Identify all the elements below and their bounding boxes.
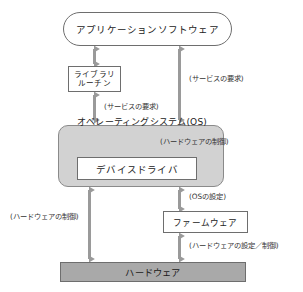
- node-application-software-label: アプリケーションソフトウェア: [76, 22, 219, 36]
- node-device-driver-label: デバイスドライバ: [96, 162, 178, 176]
- diagram-canvas: アプリケーションソフトウェア ライブラリ ルーチン オペレーティングシステム(O…: [0, 0, 303, 292]
- node-library-routine-label-line2: ルーチン: [78, 79, 111, 88]
- node-library-routine: ライブラリ ルーチン: [68, 66, 121, 92]
- node-device-driver: デバイスドライバ: [77, 157, 197, 180]
- edge-label-service-request-right: (サービスの要求): [189, 73, 244, 83]
- node-hardware-label: ハードウェア: [125, 265, 180, 279]
- node-application-software: アプリケーションソフトウェア: [63, 12, 232, 46]
- edge-label-hardware-control-left: (ハードウェアの制御): [10, 211, 79, 221]
- node-operating-system-label: オペレーティングシステム(OS): [59, 115, 225, 128]
- node-library-routine-label-line1: ライブラリ: [74, 70, 115, 79]
- node-hardware: ハードウェア: [60, 262, 246, 282]
- edge-label-service-request-left: (サービスの要求): [104, 101, 159, 111]
- node-firmware: ファームウェア: [163, 211, 248, 233]
- edge-label-hardware-control-os: (ハードウェアの制御): [160, 136, 229, 146]
- edge-label-hardware-set-control: (ハードウェアの設定／制御): [189, 240, 279, 250]
- edge-label-os-setting: (OSの設定): [189, 191, 226, 201]
- node-firmware-label: ファームウェア: [173, 216, 237, 228]
